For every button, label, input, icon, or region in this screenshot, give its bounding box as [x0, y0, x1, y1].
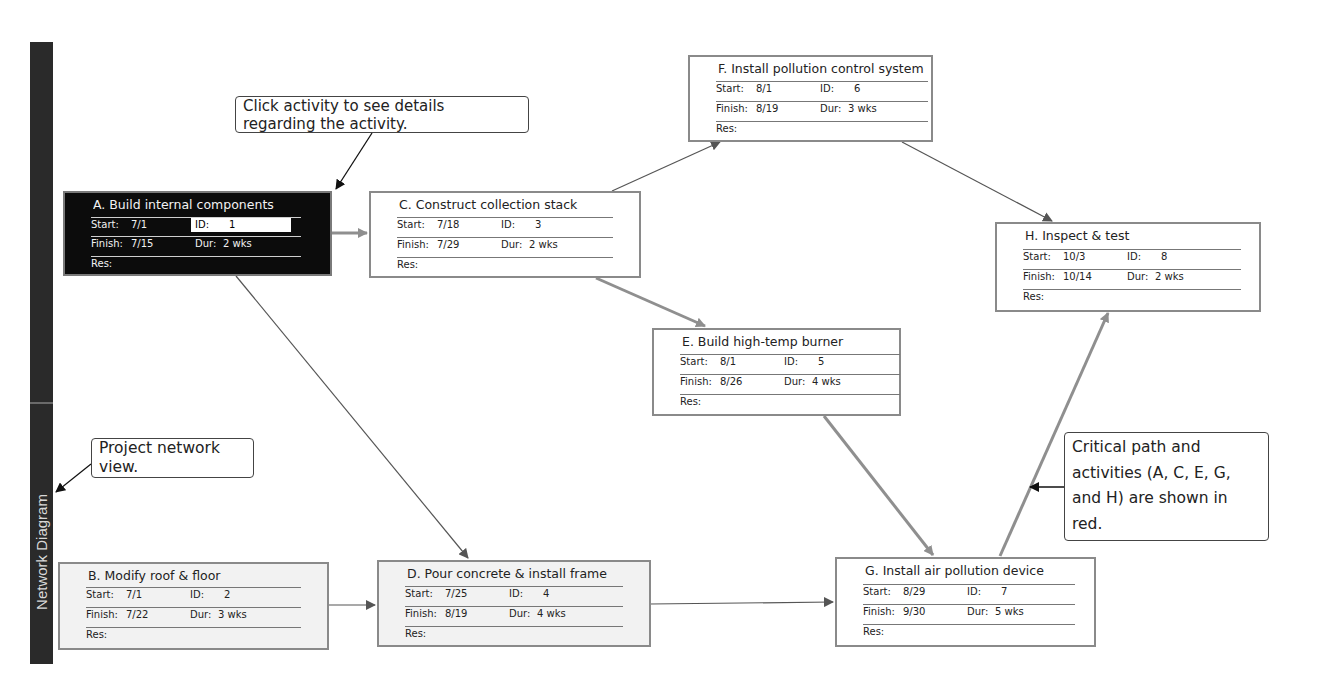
finish-value: 9/30 — [903, 606, 925, 617]
finish-label: Finish: — [1023, 271, 1055, 282]
link-c-e — [596, 278, 705, 326]
link-a-d — [236, 276, 468, 558]
finish-value: 7/15 — [131, 238, 153, 249]
id-label: ID: — [509, 588, 523, 599]
res-label: Res: — [716, 123, 737, 134]
finish-value: 8/19 — [445, 608, 467, 619]
id-label: ID: — [195, 219, 209, 230]
finish-label: Finish: — [405, 608, 437, 619]
finish-row: Finish: 7/22 Dur: 3 wks — [86, 607, 301, 623]
start-value: 8/1 — [720, 356, 736, 367]
finish-value: 7/29 — [437, 239, 459, 250]
res-label: Res: — [680, 396, 701, 407]
dur-label: Dur: — [501, 239, 522, 250]
dur-value: 2 wks — [223, 238, 252, 249]
activity-title: C. Construct collection stack — [399, 197, 611, 212]
finish-row: Finish: 7/29 Dur: 2 wks — [397, 237, 613, 253]
dur-label: Dur: — [509, 608, 530, 619]
finish-row: Finish: 8/19 Dur: 4 wks — [405, 606, 623, 622]
activity-title: E. Build high-temp burner — [682, 334, 897, 349]
start-row: Start: 10/3 ID: 8 — [1023, 249, 1241, 265]
start-label: Start: — [863, 586, 891, 597]
dur-value: 4 wks — [537, 608, 566, 619]
finish-label: Finish: — [680, 376, 712, 387]
callout-critical-path: Critical path and activities (A, C, E, G… — [1064, 432, 1269, 541]
finish-value: 10/14 — [1063, 271, 1092, 282]
activity-title: H. Inspect & test — [1025, 228, 1240, 243]
res-label: Res: — [405, 628, 426, 639]
finish-value: 8/19 — [756, 103, 778, 114]
link-f-h — [902, 142, 1052, 221]
callout-project-network-view: Project network view. — [91, 438, 254, 478]
res-label: Res: — [397, 259, 418, 270]
dur-label: Dur: — [820, 103, 841, 114]
start-label: Start: — [397, 219, 425, 230]
activity-node-g[interactable]: G. Install air pollution device Start: 8… — [835, 557, 1096, 647]
id-label: ID: — [190, 589, 204, 600]
activity-node-d[interactable]: D. Pour concrete & install frame Start: … — [377, 560, 651, 647]
res-label: Res: — [1023, 291, 1044, 302]
finish-label: Finish: — [86, 609, 118, 620]
res-row: Res: — [397, 257, 613, 273]
finish-row: Finish: 9/30 Dur: 5 wks — [863, 604, 1075, 620]
start-label: Start: — [680, 356, 708, 367]
start-row: Start: 7/1 ID: 2 — [86, 587, 301, 603]
dur-label: Dur: — [1127, 271, 1148, 282]
id-label: ID: — [1127, 251, 1141, 262]
id-label: ID: — [501, 219, 515, 230]
activity-node-e[interactable]: E. Build high-temp burner Start: 8/1 ID:… — [652, 328, 901, 416]
start-value: 8/1 — [756, 83, 772, 94]
activity-node-f[interactable]: F. Install pollution control system Star… — [688, 55, 933, 142]
res-row: Res: — [86, 627, 301, 643]
finish-row: Finish: 8/19 Dur: 3 wks — [716, 101, 928, 117]
dur-label: Dur: — [967, 606, 988, 617]
link-c-f — [612, 142, 720, 191]
activity-node-h[interactable]: H. Inspect & test Start: 10/3 ID: 8 Fini… — [995, 222, 1261, 312]
id-label: ID: — [820, 83, 834, 94]
res-row: Res: — [716, 121, 928, 137]
finish-row: Finish: 8/26 Dur: 4 wks — [680, 374, 900, 390]
dur-value: 3 wks — [848, 103, 877, 114]
res-row: Res: — [863, 624, 1075, 640]
start-row: Start: 8/29 ID: 7 — [863, 584, 1075, 600]
id-value: 2 — [224, 589, 230, 600]
start-row: Start: 8/1 ID: 6 — [716, 81, 928, 97]
start-row: Start: 7/1 ID: 1 — [91, 217, 301, 233]
start-value: 7/18 — [437, 219, 459, 230]
activity-title: B. Modify roof & floor — [88, 568, 303, 583]
start-label: Start: — [91, 219, 119, 230]
res-row: Res: — [91, 256, 301, 272]
start-label: Start: — [86, 589, 114, 600]
finish-label: Finish: — [863, 606, 895, 617]
activity-node-b[interactable]: B. Modify roof & floor Start: 7/1 ID: 2 … — [58, 562, 329, 650]
activity-title: A. Build internal components — [93, 197, 303, 212]
dur-value: 2 wks — [1155, 271, 1184, 282]
activity-node-c[interactable]: C. Construct collection stack Start: 7/1… — [369, 191, 641, 278]
activity-node-a[interactable]: A. Build internal components Start: 7/1 … — [63, 191, 332, 276]
start-label: Start: — [405, 588, 433, 599]
id-value: 6 — [854, 83, 860, 94]
id-value: 3 — [535, 219, 541, 230]
finish-label: Finish: — [91, 238, 123, 249]
activity-title: G. Install air pollution device — [865, 563, 1073, 578]
start-value: 7/25 — [445, 588, 467, 599]
finish-row: Finish: 10/14 Dur: 2 wks — [1023, 269, 1241, 285]
dur-label: Dur: — [190, 609, 211, 620]
dur-label: Dur: — [195, 238, 216, 249]
dur-label: Dur: — [784, 376, 805, 387]
res-row: Res: — [405, 626, 623, 642]
id-value: 8 — [1161, 251, 1167, 262]
link-e-g — [824, 416, 933, 555]
finish-value: 7/22 — [126, 609, 148, 620]
dur-value: 2 wks — [529, 239, 558, 250]
start-value: 7/1 — [131, 219, 147, 230]
callout-pointer-click — [336, 133, 372, 189]
start-label: Start: — [1023, 251, 1051, 262]
res-label: Res: — [863, 626, 884, 637]
callout-click-activity: Click activity to see details regarding … — [235, 96, 529, 133]
dur-value: 5 wks — [995, 606, 1024, 617]
id-label: ID: — [784, 356, 798, 367]
start-label: Start: — [716, 83, 744, 94]
callout-pointer-view — [56, 464, 91, 492]
activity-title: D. Pour concrete & install frame — [407, 566, 622, 581]
